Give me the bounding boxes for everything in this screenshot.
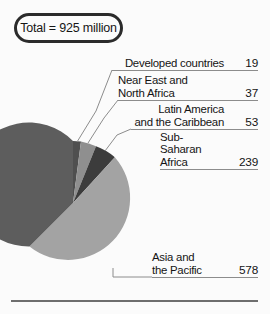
- callout-caption: Sub-Saharan Africa: [160, 131, 224, 168]
- callout-caption: Near East and North Africa: [118, 74, 224, 99]
- pie-chart-figure: Total = 925 million Developed countries …: [0, 0, 270, 314]
- callout-developed-countries: Developed countries 19: [112, 55, 258, 71]
- callout-near-east-north-africa: Near East and North Africa 37: [118, 73, 258, 101]
- callout-caption: Asia and the Pacific: [152, 251, 224, 276]
- callout-value: 53: [224, 116, 258, 128]
- leader-line-developed-countries: [77, 70, 112, 142]
- callout-caption: Latin America and the Caribbean: [135, 103, 224, 128]
- callout-value: 37: [224, 87, 258, 99]
- callout-latin-america-caribbean: Latin America and the Caribbean 53: [131, 102, 258, 130]
- bottom-divider: [11, 300, 258, 302]
- callout-value: 578: [224, 264, 258, 276]
- callout-value: 19: [224, 57, 258, 69]
- leader-line-asia-pacific: [113, 268, 152, 277]
- callout-sub-saharan-africa: Sub-Saharan Africa 239: [160, 142, 258, 170]
- callout-caption: Developed countries: [125, 57, 224, 69]
- leader-line-latin-america-caribbean: [105, 129, 131, 151]
- callout-asia-pacific: Asia and the Pacific 578: [152, 250, 258, 278]
- callout-value: 239: [224, 156, 258, 168]
- leader-line-near-east-north-africa: [88, 100, 118, 143]
